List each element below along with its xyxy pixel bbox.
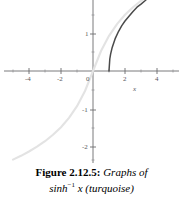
x-tick-label--4: -4 [25, 75, 30, 83]
caption-color-note: (turquoise) [85, 182, 133, 194]
y-tick-label-1: 1 [85, 30, 88, 38]
plot-area: -4 -2 0 2 4 1 -1 -2 x [0, 0, 183, 165]
x-tick-label--2: -2 [57, 75, 62, 83]
caption-function-exponent: −1 [68, 181, 75, 189]
figure-caption: Figure 2.12.5: Graphs of sinh−1 x (turqu… [0, 166, 183, 195]
caption-text: Graphs of [103, 166, 147, 178]
caption-line-2: sinh−1 x (turquoise) [0, 179, 183, 195]
figure-container: -4 -2 0 2 4 1 -1 -2 x Figure 2.12.5: Gra… [0, 0, 183, 197]
caption-function-name: sinh [49, 182, 67, 194]
caption-line-1: Figure 2.12.5: Graphs of [0, 166, 183, 179]
x-tick-label-2: 2 [123, 75, 126, 83]
x-tick-label-4: 4 [155, 75, 158, 83]
y-tick-label--1: -1 [82, 106, 87, 114]
y-tick-label--2: -2 [82, 143, 87, 151]
caption-number: Figure 2.12.5: [36, 166, 101, 178]
x-axis-label: x [133, 85, 136, 93]
x-tick-label-0: 0 [86, 75, 89, 83]
